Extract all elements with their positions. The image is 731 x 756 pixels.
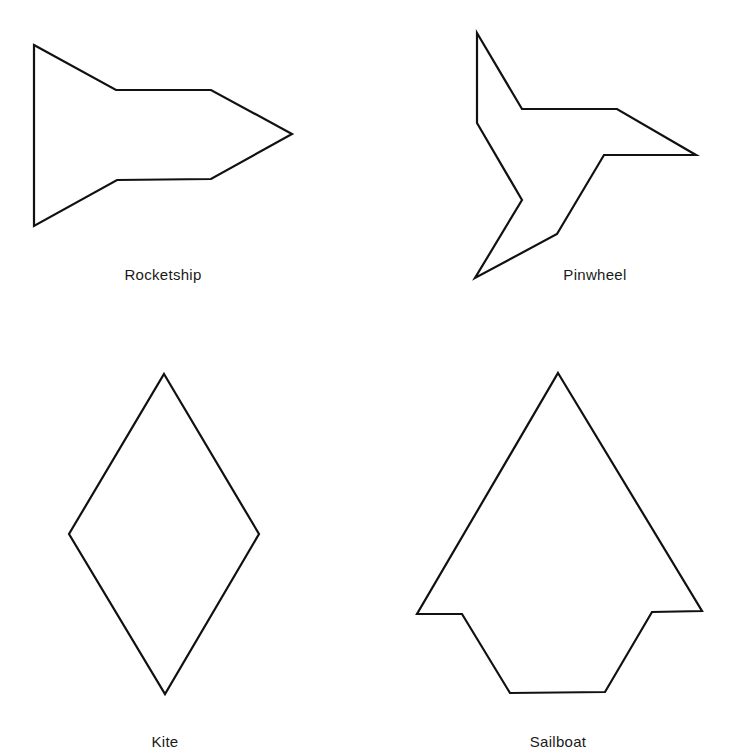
sailboat-shape — [417, 373, 702, 693]
kite-label: Kite — [151, 733, 178, 750]
rocketship-shape — [34, 45, 292, 226]
rocketship-label: Rocketship — [124, 266, 201, 283]
pinwheel-label: Pinwheel — [563, 266, 626, 283]
figure-canvas — [0, 0, 731, 756]
pinwheel-shape — [475, 33, 696, 278]
sailboat-label: Sailboat — [530, 733, 587, 750]
kite-shape — [69, 374, 259, 694]
